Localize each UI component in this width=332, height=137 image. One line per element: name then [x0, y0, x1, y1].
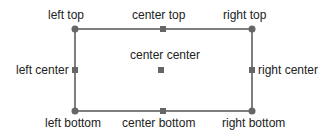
left-top-marker [72, 26, 79, 33]
right-bottom-marker [249, 108, 256, 115]
label-center-center: center center [130, 48, 200, 62]
label-left-center: left center [16, 63, 69, 77]
label-left-top: left top [48, 8, 84, 22]
label-right-bottom: right bottom [222, 116, 285, 130]
center-center-marker [158, 67, 164, 73]
center-top-marker [160, 26, 166, 32]
center-bottom-marker [160, 108, 166, 114]
right-top-marker [249, 26, 256, 33]
left-center-marker [72, 67, 78, 73]
label-left-bottom: left bottom [45, 116, 101, 130]
right-center-marker [249, 67, 255, 73]
label-right-center: right center [258, 63, 318, 77]
label-center-top: center top [132, 8, 185, 22]
anchor-points-diagram: left top center top right top left cente… [0, 0, 332, 137]
left-bottom-marker [72, 108, 79, 115]
label-center-bottom: center bottom [122, 116, 195, 130]
label-right-top: right top [223, 8, 266, 22]
